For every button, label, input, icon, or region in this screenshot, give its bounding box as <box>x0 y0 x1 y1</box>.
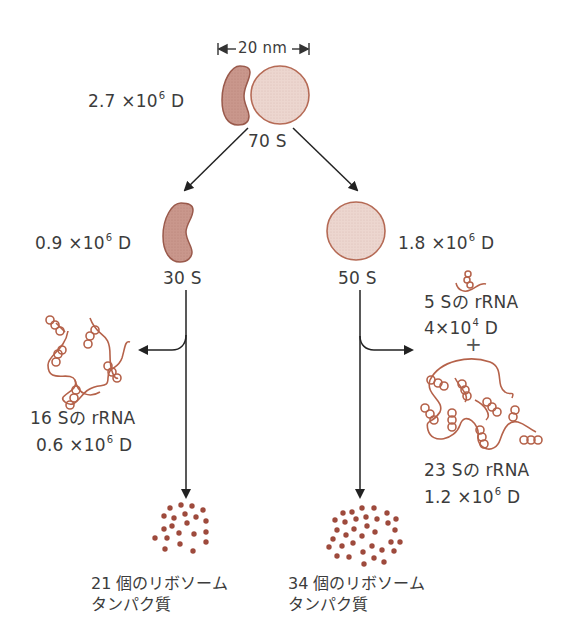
rrna-5s-shape <box>456 271 486 291</box>
scale-bar-label: 20 nm <box>238 38 287 58</box>
mass-70s-unit: D <box>171 91 184 111</box>
label-50s: 50 S <box>338 268 377 288</box>
proteins-50s-line2: タンパク質 <box>288 595 368 615</box>
rrna-23s-mass-unit: D <box>507 487 520 507</box>
path-30s <box>140 290 186 495</box>
rrna-16s-shape <box>46 316 130 409</box>
ribosome-70s-shape <box>222 66 309 125</box>
arrow-to-30s <box>185 128 248 190</box>
mass-70s: 2.7 ×106 D <box>88 86 184 111</box>
proteins-30s-line1: 21 個のリボソーム <box>91 574 228 594</box>
mass-50s-unit: D <box>481 233 494 253</box>
rrna-16s-name: 16 Sの rRNA <box>30 408 135 428</box>
small-subunit-shape <box>222 66 250 125</box>
rrna-5s-name: 5 Sの rRNA <box>424 292 518 312</box>
rrna-23s-mass-exponent: 6 <box>495 486 502 497</box>
mass-70s-value: 2.7 ×10 <box>88 91 158 111</box>
rrna-23s-mass-value: 1.2 ×10 <box>424 487 494 507</box>
plus-sign: + <box>465 334 482 354</box>
rrna-5s-mass-unit: D <box>485 318 498 338</box>
mass-50s: 1.8 ×106 D <box>398 228 494 253</box>
rrna-23s-shape <box>421 359 542 449</box>
large-subunit-shape <box>251 66 309 124</box>
subunit-50s-shape <box>327 202 385 260</box>
label-70s: 70 S <box>248 131 287 151</box>
rrna-23s-mass: 1.2 ×106 D <box>424 482 520 507</box>
mass-30s-value: 0.9 ×10 <box>35 233 105 253</box>
arrow-to-50s <box>293 128 357 190</box>
proteins-30s-line2: タンパク質 <box>91 595 171 615</box>
subunit-30s-shape <box>163 203 193 262</box>
mass-30s-exponent: 6 <box>106 232 113 243</box>
mass-30s-unit: D <box>118 233 131 253</box>
proteins-50s-dots <box>326 505 402 566</box>
label-30s: 30 S <box>163 268 202 288</box>
rrna-23s-name: 23 Sの rRNA <box>424 460 529 480</box>
proteins-30s-dots <box>152 502 208 553</box>
proteins-50s-line1: 34 個のリボソーム <box>288 574 425 594</box>
mass-50s-value: 1.8 ×10 <box>398 233 468 253</box>
path-50s <box>360 290 412 495</box>
mass-70s-exponent: 6 <box>159 90 166 101</box>
rrna-5s-mass: 4×104 D <box>424 313 498 338</box>
rrna-16s-mass-unit: D <box>119 435 132 455</box>
rrna-16s-mass-exponent: 6 <box>107 434 114 445</box>
rrna-16s-mass-value: 0.6 ×10 <box>36 435 106 455</box>
rrna-16s-mass: 0.6 ×106 D <box>36 430 132 455</box>
mass-30s: 0.9 ×106 D <box>35 228 131 253</box>
rrna-5s-mass-exponent: 4 <box>473 317 480 328</box>
mass-50s-exponent: 6 <box>469 232 476 243</box>
